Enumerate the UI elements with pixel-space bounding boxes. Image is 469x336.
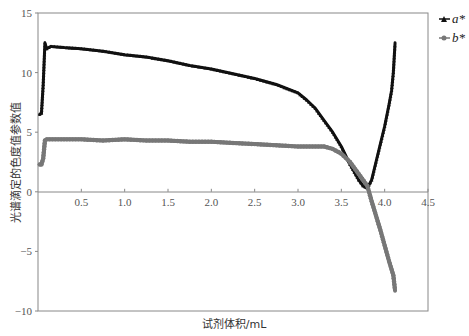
y-tick-label: 10 bbox=[21, 67, 33, 79]
y-tick-label: 5 bbox=[27, 126, 33, 138]
plot-frame bbox=[38, 13, 428, 311]
y-tick-label: −10 bbox=[15, 305, 33, 317]
y-tick-label: 0 bbox=[27, 186, 33, 198]
legend-label-b-star: b* bbox=[452, 30, 466, 45]
x-tick-label: 1.5 bbox=[161, 196, 175, 208]
legend: a* b* bbox=[439, 11, 466, 45]
y-axis-label: 光谱滴定的色度值参数值 bbox=[9, 102, 23, 223]
x-tick-label: 2.0 bbox=[204, 196, 218, 208]
x-tick-label: 0.5 bbox=[74, 196, 88, 208]
legend-label-a-star: a* bbox=[452, 11, 466, 26]
titration-chart: 151050−5−10 0.51.01.52.02.53.03.54.04.5 … bbox=[0, 0, 469, 336]
series-b-star bbox=[38, 137, 397, 291]
y-tick-label: −5 bbox=[20, 245, 32, 257]
series-a-star bbox=[38, 41, 397, 190]
x-tick-label: 4.5 bbox=[421, 196, 435, 208]
x-tick-label: 4.0 bbox=[378, 196, 392, 208]
x-tick-label: 3.0 bbox=[291, 196, 305, 208]
series-layer bbox=[38, 41, 397, 291]
x-tick-label: 1.0 bbox=[118, 196, 132, 208]
x-tick-label: 3.5 bbox=[334, 196, 348, 208]
legend-item-b-star: b* bbox=[439, 30, 466, 45]
x-tick-label: 2.5 bbox=[248, 196, 262, 208]
x-axis-label: 试剂体积/mL bbox=[202, 317, 267, 331]
legend-item-a-star: a* bbox=[439, 11, 466, 26]
circle-marker-icon bbox=[442, 36, 447, 41]
y-tick-label: 15 bbox=[21, 7, 33, 19]
